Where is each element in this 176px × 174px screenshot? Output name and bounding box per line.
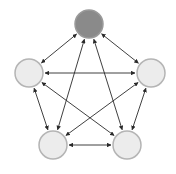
node-bottom-right: [113, 131, 141, 159]
edge-top-bottom-left: [58, 39, 85, 129]
edge-right-bottom-right: [132, 88, 146, 130]
edge-top-left: [41, 34, 76, 63]
node-bottom-left: [39, 131, 67, 159]
edge-left-bottom-left: [34, 88, 48, 130]
network-diagram: [0, 0, 176, 174]
edge-top-right: [102, 34, 139, 63]
node-right: [137, 59, 165, 87]
edge-group: [34, 34, 146, 145]
node-top: [75, 10, 103, 38]
edge-top-bottom-right: [94, 39, 122, 129]
edge-right-bottom-left: [66, 83, 138, 136]
node-left: [15, 59, 43, 87]
edge-left-bottom-right: [42, 83, 114, 136]
node-group: [15, 10, 165, 159]
